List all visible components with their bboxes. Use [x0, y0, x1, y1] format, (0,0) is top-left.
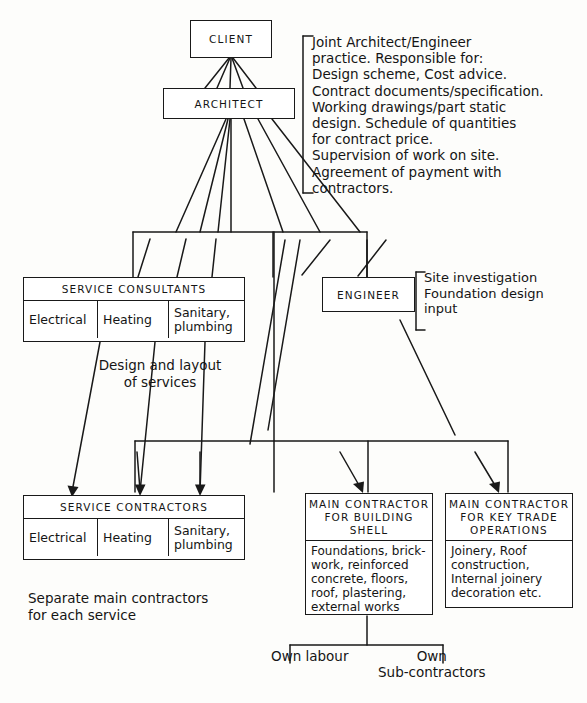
- node-service-contractors-title: SERVICE CONTRACTORS: [24, 496, 244, 518]
- service-contractor-sanitary-plumbing: Sanitary, plumbing: [169, 519, 244, 556]
- service-contractors-cells: Electrical Heating Sanitary, plumbing: [24, 518, 244, 556]
- own-labour-label: Own labour: [271, 648, 348, 664]
- node-architect-title: ARCHITECT: [164, 89, 294, 119]
- separate-contractors-note: Separate main contractors for each servi…: [28, 590, 278, 624]
- node-main-contractor-key-trades-title: MAIN CONTRACTOR FOR KEY TRADE OPERATIONS: [446, 494, 572, 540]
- node-client: CLIENT: [190, 20, 272, 58]
- services-design-note: Design and layout of services: [55, 357, 265, 391]
- service-contractor-electrical: Electrical: [24, 519, 98, 556]
- node-client-title: CLIENT: [191, 21, 271, 57]
- service-consultant-heating: Heating: [98, 301, 169, 338]
- service-consultant-sanitary-plumbing: Sanitary, plumbing: [169, 301, 244, 338]
- node-architect: ARCHITECT: [163, 88, 295, 119]
- service-consultant-electrical: Electrical: [24, 301, 98, 338]
- node-engineer-title: ENGINEER: [323, 278, 414, 312]
- architect-responsibilities-note: Joint Architect/Engineer practice. Respo…: [312, 34, 582, 196]
- node-main-contractor-building-shell-body: Foundations, brick- work, reinforced con…: [306, 540, 432, 618]
- node-service-consultants: SERVICE CONSULTANTS Electrical Heating S…: [23, 277, 245, 342]
- service-contractor-heating: Heating: [98, 519, 169, 556]
- node-service-consultants-title: SERVICE CONSULTANTS: [24, 278, 244, 300]
- own-subcontractors-label: Own Sub-contractors: [378, 648, 485, 680]
- node-main-contractor-building-shell: MAIN CONTRACTOR FOR BUILDING SHELL Found…: [305, 493, 433, 615]
- node-main-contractor-key-trades: MAIN CONTRACTOR FOR KEY TRADE OPERATIONS…: [445, 493, 573, 608]
- node-main-contractor-key-trades-body: Joinery, Roof construction, Internal joi…: [446, 540, 572, 604]
- diagram-canvas: CLIENT ARCHITECT Joint Architect/Enginee…: [0, 0, 587, 703]
- engineer-scope-note: Site investigation Foundation design inp…: [424, 270, 584, 317]
- service-consultants-cells: Electrical Heating Sanitary, plumbing: [24, 300, 244, 338]
- node-service-contractors: SERVICE CONTRACTORS Electrical Heating S…: [23, 495, 245, 560]
- node-main-contractor-building-shell-title: MAIN CONTRACTOR FOR BUILDING SHELL: [306, 494, 432, 540]
- node-engineer: ENGINEER: [322, 277, 415, 312]
